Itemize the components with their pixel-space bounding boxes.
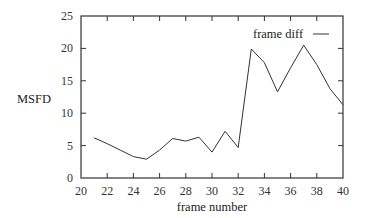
series-line-frame-diff [94, 45, 343, 159]
x-tick-label: 32 [232, 184, 244, 198]
x-tick-label: 24 [127, 184, 139, 198]
x-tick-label: 34 [258, 184, 270, 198]
plot-frame [81, 16, 343, 178]
data-series [94, 45, 343, 159]
y-tick-label: 15 [61, 74, 73, 88]
x-tick-label: 20 [75, 184, 87, 198]
x-tick-label: 22 [101, 184, 113, 198]
x-tick-label: 38 [311, 184, 323, 198]
y-axis-label: MSFD [17, 92, 51, 106]
x-axis-ticks: 2022242628303234363840 [75, 16, 349, 198]
x-tick-label: 36 [285, 184, 297, 198]
x-axis-label: frame number [177, 200, 248, 214]
x-tick-label: 26 [154, 184, 166, 198]
y-tick-label: 20 [61, 41, 73, 55]
x-tick-label: 28 [180, 184, 192, 198]
y-tick-label: 10 [61, 106, 73, 120]
x-tick-label: 30 [206, 184, 218, 198]
line-chart: 2022242628303234363840 0510152025 frame … [0, 0, 366, 218]
legend: frame diff [253, 27, 329, 41]
plot-border [81, 16, 343, 178]
y-tick-label: 0 [67, 171, 73, 185]
legend-label: frame diff [253, 27, 304, 41]
y-tick-label: 25 [61, 9, 73, 23]
y-tick-label: 5 [67, 139, 73, 153]
x-tick-label: 40 [337, 184, 349, 198]
